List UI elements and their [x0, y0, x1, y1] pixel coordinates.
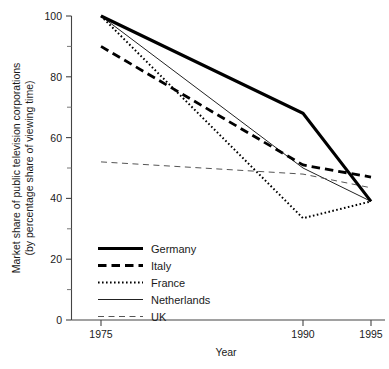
x-tick-label-1975: 1975: [89, 328, 113, 340]
chart-legend: Germany Italy France Netherlands UK: [98, 243, 211, 323]
series-line-italy: [101, 46, 371, 177]
legend-label-france: France: [151, 277, 185, 289]
series-group: [101, 16, 371, 218]
legend-label-italy: Italy: [151, 260, 172, 272]
x-tick-label-1995: 1995: [359, 328, 383, 340]
y-axis-title-line2: (by percentage share of viewing time): [23, 80, 35, 255]
x-axis-tick-labels: 1975 1990 1995: [89, 328, 383, 340]
legend-item-netherlands[interactable]: Netherlands: [98, 294, 211, 306]
legend-label-uk: UK: [151, 311, 167, 323]
y-tick-label-40: 40: [50, 192, 62, 204]
series-line-netherlands: [101, 16, 371, 201]
chart-container: 100 80 60 40 20 0 1975 1990 1995 Year Ma…: [0, 0, 389, 369]
axes: [72, 16, 386, 320]
y-tick-label-100: 100: [44, 10, 62, 22]
y-axis-ticks: [66, 16, 72, 320]
x-tick-label-1990: 1990: [291, 328, 315, 340]
x-axis-ticks: [101, 320, 371, 326]
y-tick-label-0: 0: [56, 314, 62, 326]
legend-item-france[interactable]: France: [98, 277, 185, 289]
series-line-uk: [101, 162, 371, 188]
x-axis-title: Year: [215, 346, 237, 358]
legend-item-uk[interactable]: UK: [98, 311, 167, 323]
legend-label-netherlands: Netherlands: [151, 294, 211, 306]
y-tick-label-20: 20: [50, 253, 62, 265]
legend-label-germany: Germany: [151, 243, 197, 255]
legend-item-italy[interactable]: Italy: [98, 260, 172, 272]
y-axis-title-line1: Market share of public television corpor…: [10, 63, 22, 274]
series-line-germany: [101, 16, 371, 201]
legend-item-germany[interactable]: Germany: [98, 243, 197, 255]
line-chart: 100 80 60 40 20 0 1975 1990 1995 Year Ma…: [0, 0, 389, 369]
y-tick-label-60: 60: [50, 132, 62, 144]
y-tick-label-80: 80: [50, 71, 62, 83]
y-axis-tick-labels: 100 80 60 40 20 0: [44, 10, 62, 326]
